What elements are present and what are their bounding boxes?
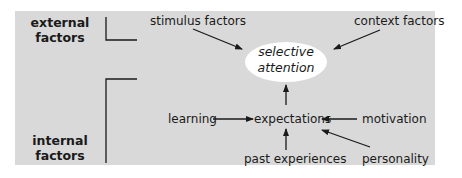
context-factors-label: context factors [354, 14, 444, 28]
selective-attention-label: selective attention [244, 44, 328, 76]
past-experiences-label: past experiences [244, 152, 347, 166]
external-line1: external [25, 15, 95, 30]
arrow-context-to-attention [334, 30, 380, 49]
center-line1: selective [244, 44, 328, 60]
internal-line1: internal [25, 133, 95, 148]
motivation-label: motivation [362, 112, 427, 126]
external-factors-label: external factors [25, 15, 95, 45]
internal-bracket [106, 79, 137, 163]
stimulus-factors-label: stimulus factors [150, 14, 246, 28]
center-line2: attention [244, 60, 328, 76]
personality-label: personality [362, 152, 429, 166]
external-bracket [106, 17, 137, 40]
internal-line2: factors [25, 148, 95, 163]
expectations-label: expectations [254, 112, 331, 126]
arrow-personality-to-expectations [322, 130, 370, 147]
internal-factors-label: internal factors [25, 133, 95, 163]
external-line2: factors [25, 30, 95, 45]
arrow-stimulus-to-attention [193, 29, 242, 49]
learning-label: learning [168, 112, 217, 126]
